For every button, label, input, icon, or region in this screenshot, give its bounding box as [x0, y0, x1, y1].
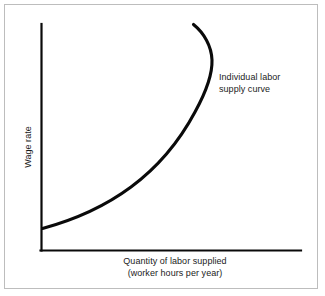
x-axis-label-line1: Quantity of labor supplied [123, 256, 226, 266]
figure-container: Individual labor supply curve Quantity o… [0, 0, 325, 296]
curve-label-line2: supply curve [219, 84, 270, 94]
curve-label-line1: Individual labor [219, 72, 280, 82]
labor-supply-curve [43, 25, 213, 229]
chart-plot-area: Individual labor supply curve Quantity o… [0, 0, 325, 296]
x-axis-label-line2: (worker hours per year) [128, 268, 223, 278]
y-axis-label: Wage rate [23, 126, 33, 168]
